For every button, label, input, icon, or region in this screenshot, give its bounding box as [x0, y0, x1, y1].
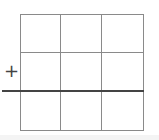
- plus-icon: +: [4, 62, 19, 80]
- grid-line-v1: [20, 14, 21, 130]
- grid-line-v2: [60, 14, 61, 130]
- grid-line-h4: [20, 130, 144, 131]
- axis-line: [2, 90, 144, 92]
- grid-line-h2: [20, 52, 144, 53]
- grid-line-h1: [20, 14, 144, 15]
- grid-line-v4: [143, 14, 144, 130]
- bottom-strip: [0, 135, 159, 140]
- grid-line-v3: [101, 14, 102, 130]
